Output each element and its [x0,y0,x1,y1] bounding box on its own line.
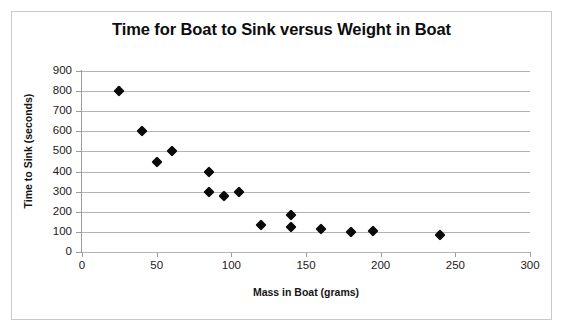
gridline-y [82,151,530,152]
y-tick-label: 900 [28,65,72,77]
gridline-y [82,71,530,72]
y-tick-label: 400 [28,166,72,178]
y-tick-label: 300 [28,186,72,198]
y-tick-label: 500 [28,145,72,157]
x-tick-label: 50 [137,259,177,271]
x-tick-label: 0 [62,259,102,271]
data-point-marker [203,186,214,197]
gridline-y [82,252,530,253]
data-point-marker [285,221,296,232]
x-tick-label: 300 [510,259,550,271]
gridline-y [82,232,530,233]
gridline-y [82,111,530,112]
data-point-marker [203,166,214,177]
gridline-y [82,172,530,173]
gridline-y [82,192,530,193]
chart-figure: Time for Boat to Sink versus Weight in B… [0,0,563,331]
y-tick-label: 100 [28,226,72,238]
x-tick-label: 150 [286,259,326,271]
x-axis-title: Mass in Boat (grams) [82,286,530,298]
data-point-marker [151,156,162,167]
data-point-marker [166,146,177,157]
data-point-marker [345,226,356,237]
x-tick-label: 100 [211,259,251,271]
data-point-marker [233,186,244,197]
y-tick-label: 800 [28,85,72,97]
y-tick-label: 0 [28,246,72,258]
x-tick-label: 200 [361,259,401,271]
data-point-marker [368,225,379,236]
x-tick-label: 250 [435,259,475,271]
data-point-marker [136,126,147,137]
x-tick-mark [530,252,531,257]
gridline-y [82,91,530,92]
y-tick-label: 700 [28,105,72,117]
y-tick-label: 200 [28,206,72,218]
plot-area [82,71,530,252]
chart-title: Time for Boat to Sink versus Weight in B… [0,20,563,39]
gridline-y [82,131,530,132]
gridline-y [82,212,530,213]
y-tick-label: 600 [28,125,72,137]
data-point-marker [256,219,267,230]
data-point-marker [114,85,125,96]
